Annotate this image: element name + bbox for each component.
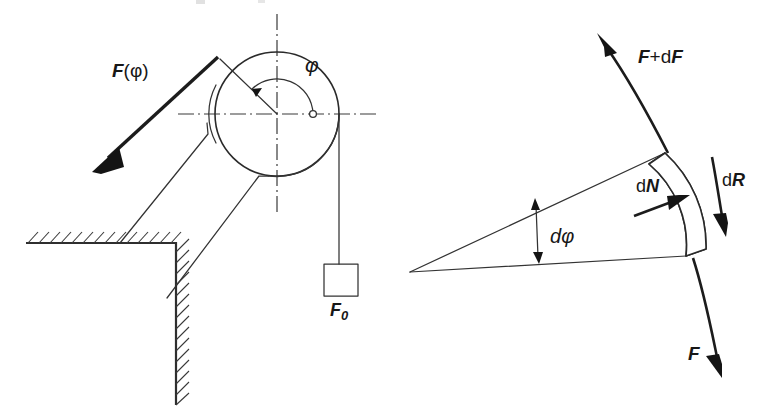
left-diagram-group: F(φ) φ F0 xyxy=(26,14,378,405)
tension-out-label: F+dF xyxy=(638,46,684,67)
resultant-force-arrow xyxy=(712,157,728,237)
element-angle-indicator xyxy=(531,198,543,264)
wrap-angle-arc-origin-dot xyxy=(310,111,317,118)
resultant-force-label: dR xyxy=(722,170,745,190)
wall-hatching-horizontal xyxy=(28,232,181,243)
bracket-arm-lower xyxy=(167,176,269,298)
technical-diagram-canvas: F(φ) φ F0 xyxy=(0,0,771,410)
element-angle-label: dφ xyxy=(550,225,574,247)
rope-wrap-bottom xyxy=(269,114,339,177)
applied-force-label: F(φ) xyxy=(112,60,149,81)
wall-support xyxy=(26,232,189,405)
wrap-angle-arc xyxy=(252,79,313,114)
wrap-angle-arrowhead xyxy=(252,88,262,97)
figure-root: F(φ) φ F0 xyxy=(0,0,771,410)
wrap-angle-label: φ xyxy=(305,53,319,76)
applied-force-arrow xyxy=(92,57,218,174)
radius-line-to-tangent-point xyxy=(220,59,277,114)
bracket-arm-upper xyxy=(120,123,208,243)
normal-force-label: dN xyxy=(636,176,660,196)
sector-radius-lower xyxy=(410,256,686,272)
wall-outline xyxy=(26,243,176,405)
right-diagram-group: F+dF dN dR dφ F xyxy=(410,33,745,378)
weight-force-label: F0 xyxy=(330,300,349,323)
tension-in-label: F xyxy=(688,343,701,364)
hanging-weight-block xyxy=(324,264,358,296)
cropped-caption-fragment xyxy=(196,0,265,4)
belt-element-band xyxy=(649,153,706,256)
wall-hatching-vertical xyxy=(176,239,189,405)
